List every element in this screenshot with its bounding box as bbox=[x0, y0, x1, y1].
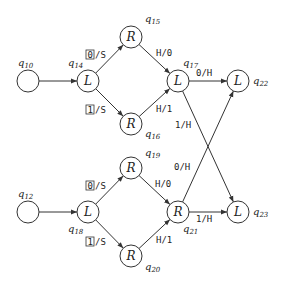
diagram-svg: q10Lq14Rq15Rq16Lq17Lq22q12Lq18Rq19Rq20Rq… bbox=[0, 0, 284, 283]
state-q22: Lq22 bbox=[227, 70, 269, 92]
state-name: q14 bbox=[68, 57, 83, 70]
transition-action: 0/H bbox=[174, 162, 190, 172]
transition-action: H/1 bbox=[156, 235, 172, 245]
state-symbol: R bbox=[125, 161, 135, 175]
transition-label: 1/S bbox=[86, 237, 106, 247]
state-diagram: q10Lq14Rq15Rq16Lq17Lq22q12Lq18Rq19Rq20Rq… bbox=[0, 0, 284, 283]
state-symbol: L bbox=[173, 74, 182, 88]
transition-label: H/0 bbox=[155, 179, 171, 189]
state-q14: Lq14 bbox=[68, 57, 99, 92]
state-q21: Rq21 bbox=[167, 201, 198, 236]
read-symbol: 1 bbox=[88, 105, 93, 115]
read-symbol: 0 bbox=[88, 50, 93, 60]
transition-action: /S bbox=[95, 105, 106, 115]
state-q23: Lq23 bbox=[227, 201, 269, 223]
state-q12: q12 bbox=[17, 188, 39, 223]
state-q20: Rq20 bbox=[120, 245, 161, 274]
state-name: q23 bbox=[253, 206, 269, 219]
state-q16: Rq16 bbox=[120, 113, 161, 141]
state-q17: Lq17 bbox=[167, 57, 199, 92]
transition-action: 0/H bbox=[196, 68, 212, 78]
transition-label: 0/H bbox=[196, 68, 212, 78]
transition-label: H/0 bbox=[156, 48, 172, 58]
state-symbol: R bbox=[125, 117, 135, 131]
state-name: q19 bbox=[145, 147, 161, 160]
state-q19: Rq19 bbox=[120, 147, 161, 179]
read-symbol: 1 bbox=[88, 237, 93, 247]
transition-label: H/1 bbox=[156, 235, 172, 245]
transition-label: 1/S bbox=[86, 105, 106, 115]
state-circle bbox=[17, 201, 39, 223]
state-name: q16 bbox=[145, 128, 161, 141]
transition-label: 1/H bbox=[175, 120, 191, 130]
state-name: q10 bbox=[18, 57, 34, 70]
state-name: q12 bbox=[18, 188, 34, 201]
transition-action: /S bbox=[95, 181, 106, 191]
transition-label: H/1 bbox=[156, 104, 172, 114]
state-symbol: R bbox=[125, 30, 135, 44]
transition-label: 1/H bbox=[196, 214, 212, 224]
state-symbol: L bbox=[83, 205, 92, 219]
states-layer: q10Lq14Rq15Rq16Lq17Lq22q12Lq18Rq19Rq20Rq… bbox=[17, 13, 269, 274]
state-name: q20 bbox=[145, 261, 161, 274]
transition-label: 0/S bbox=[86, 181, 106, 191]
transition-action: /S bbox=[95, 237, 106, 247]
state-name: q22 bbox=[253, 75, 269, 88]
state-symbol: R bbox=[172, 205, 182, 219]
state-name: q18 bbox=[68, 223, 84, 236]
state-name: q21 bbox=[183, 223, 198, 236]
state-symbol: L bbox=[233, 74, 242, 88]
transition-action: 1/H bbox=[196, 214, 212, 224]
state-symbol: L bbox=[233, 205, 242, 219]
state-q18: Lq18 bbox=[68, 201, 99, 236]
state-symbol: L bbox=[83, 74, 92, 88]
state-q10: q10 bbox=[17, 57, 39, 92]
state-symbol: R bbox=[125, 249, 135, 263]
transition-action: H/1 bbox=[156, 104, 172, 114]
transition-action: 1/H bbox=[175, 120, 191, 130]
transition-action: /S bbox=[95, 50, 106, 60]
state-name: q15 bbox=[145, 13, 161, 26]
transition-label: 0/H bbox=[174, 162, 190, 172]
state-circle bbox=[17, 70, 39, 92]
transition-action: H/0 bbox=[156, 48, 172, 58]
transition-label: 0/S bbox=[86, 50, 106, 60]
read-symbol: 0 bbox=[88, 181, 93, 191]
transition-action: H/0 bbox=[155, 179, 171, 189]
state-q15: Rq15 bbox=[120, 13, 161, 48]
